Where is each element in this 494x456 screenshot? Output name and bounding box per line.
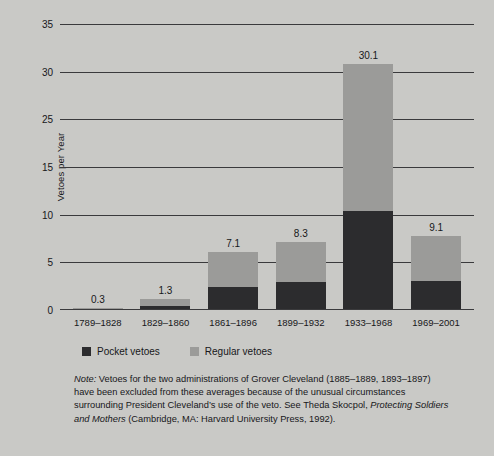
- bar-value-label: 7.1: [208, 238, 258, 250]
- legend-swatch: [82, 347, 91, 356]
- bar-group[interactable]: 30.1: [343, 24, 393, 310]
- legend-label: Regular vetoes: [205, 346, 272, 357]
- bar-segment-pocket-vetoes[interactable]: [276, 282, 326, 310]
- bar-segment-regular-vetoes[interactable]: [276, 242, 326, 282]
- bar-value-label: 9.1: [411, 222, 461, 234]
- figure-panel: Vetoes per Year 353025151050 0.31.37.18.…: [0, 0, 494, 456]
- y-axis-tick-label: 15: [42, 162, 53, 173]
- x-axis-tick-labels: 1789–18281829–18601861–18961899–19321933…: [60, 310, 474, 328]
- note-label: Note:: [74, 374, 96, 384]
- x-axis-tick-label: 1969–2001: [411, 317, 461, 328]
- bar-series-container: 0.31.37.18.330.19.1: [60, 24, 474, 310]
- bar-value-label: 8.3: [276, 228, 326, 240]
- legend-swatch: [190, 347, 199, 356]
- y-axis-tick-label: 0: [47, 305, 53, 316]
- y-axis-tick-label: 10: [42, 209, 53, 220]
- x-axis-tick-label: 1789–1828: [73, 317, 123, 328]
- x-axis-tick-label: 1933–1968: [343, 317, 393, 328]
- bar-group[interactable]: 0.3: [73, 24, 123, 310]
- figure-note: Note: Vetoes for the two administrations…: [60, 373, 452, 426]
- bar-group[interactable]: 9.1: [411, 24, 461, 310]
- bar-value-label: 0.3: [73, 294, 123, 306]
- chart-legend: Pocket vetoesRegular vetoes: [60, 346, 474, 357]
- bar-segment-regular-vetoes[interactable]: [411, 236, 461, 282]
- x-axis-tick-label: 1899–1932: [276, 317, 326, 328]
- bar-value-label: 30.1: [343, 50, 393, 62]
- bar-segment-pocket-vetoes[interactable]: [208, 287, 258, 310]
- bar-segment-pocket-vetoes[interactable]: [343, 211, 393, 310]
- bar-value-label: 1.3: [140, 285, 190, 297]
- bar-segment-regular-vetoes[interactable]: [208, 252, 258, 287]
- legend-item[interactable]: Regular vetoes: [190, 346, 272, 357]
- x-axis-line: [60, 309, 474, 310]
- y-axis-tick-label: 5: [47, 257, 53, 268]
- y-axis-tick-label: 30: [42, 66, 53, 77]
- y-axis-tick-label: 35: [42, 19, 53, 30]
- y-axis-tick-label: 25: [42, 114, 53, 125]
- x-axis-tick-label: 1829–1860: [140, 317, 190, 328]
- bar-group[interactable]: 7.1: [208, 24, 258, 310]
- x-axis-tick-label: 1861–1896: [208, 317, 258, 328]
- note-text-b: (Cambridge, MA: Harvard University Press…: [126, 414, 336, 424]
- bar-segment-regular-vetoes[interactable]: [343, 64, 393, 211]
- legend-label: Pocket vetoes: [97, 346, 160, 357]
- bar-segment-pocket-vetoes[interactable]: [411, 281, 461, 310]
- legend-item[interactable]: Pocket vetoes: [82, 346, 160, 357]
- plot-area: Vetoes per Year 353025151050 0.31.37.18.…: [60, 24, 474, 310]
- bar-group[interactable]: 1.3: [140, 24, 190, 310]
- bar-group[interactable]: 8.3: [276, 24, 326, 310]
